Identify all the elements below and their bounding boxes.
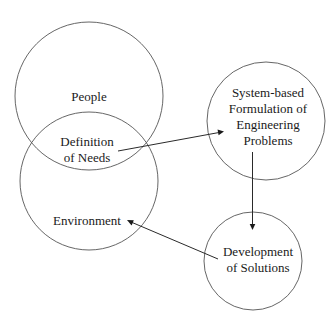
definition-label-line2: of Needs	[64, 150, 111, 165]
system-label-line1: System-based	[232, 85, 305, 100]
system-label-line4: Problems	[243, 133, 292, 148]
arrowhead-icon	[250, 224, 256, 230]
system-label-line2: Formulation of	[229, 101, 308, 116]
people-label: People	[71, 89, 107, 104]
needs-diagram: People Definition of Needs Environment S…	[0, 0, 333, 325]
definition-label-line1: Definition	[60, 134, 114, 149]
environment-label: Environment	[53, 213, 121, 228]
arrow-system-to-development	[250, 152, 256, 230]
environment-circle	[20, 112, 158, 250]
development-label-line1: Development	[223, 244, 293, 259]
arrow-development-to-environment	[127, 220, 218, 259]
system-label-line3: Engineering	[236, 117, 300, 132]
development-label-line2: of Solutions	[226, 260, 289, 275]
arrowhead-icon	[218, 130, 225, 136]
